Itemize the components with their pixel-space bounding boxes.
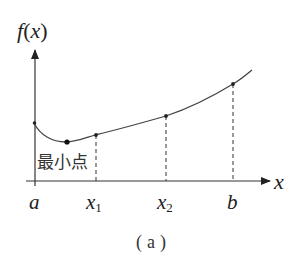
point-minimum: [64, 139, 69, 144]
tick-label-x1: x1: [85, 190, 102, 215]
function-curve: [34, 70, 252, 142]
figure-caption: (a): [136, 232, 166, 253]
point-x1: [94, 133, 98, 137]
x-axis-label: x: [273, 169, 284, 194]
point-b: [231, 82, 235, 86]
point-endpoint-a: [33, 121, 37, 125]
function-graph: f(x) x 最小点 a x1 x2 b (a): [0, 0, 306, 274]
tick-label-b: b: [227, 190, 238, 214]
y-axis-label: f(x): [17, 18, 48, 43]
tick-label-a: a: [29, 190, 40, 214]
point-x2: [164, 114, 168, 118]
tick-label-x2: x2: [156, 190, 173, 215]
min-point-label: 最小点: [37, 152, 88, 172]
